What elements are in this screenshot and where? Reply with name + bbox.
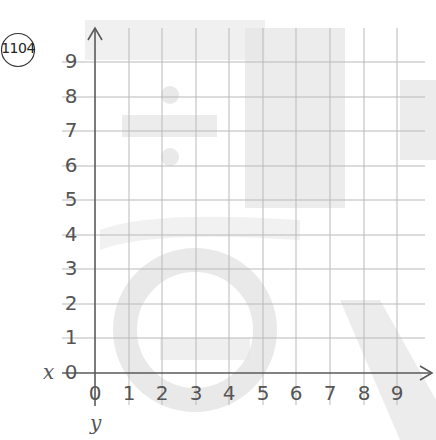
x-tick-5: 5 bbox=[256, 381, 270, 405]
x-tick-8: 8 bbox=[357, 381, 371, 405]
x-tick-2: 2 bbox=[155, 381, 169, 405]
y-tick-8: 8 bbox=[60, 84, 82, 108]
watermark-shapes bbox=[85, 20, 436, 440]
y-axis-letter: y bbox=[90, 411, 101, 435]
y-tick-5: 5 bbox=[60, 187, 82, 211]
y-tick-7: 7 bbox=[60, 118, 82, 142]
x-tick-9: 9 bbox=[390, 381, 404, 405]
x-tick-1: 1 bbox=[122, 381, 136, 405]
x-tick-6: 6 bbox=[289, 381, 303, 405]
y-tick-9: 9 bbox=[60, 49, 82, 73]
y-tick-2: 2 bbox=[60, 291, 82, 315]
x-tick-4: 4 bbox=[222, 381, 236, 405]
badge-label: 1104 bbox=[1, 40, 35, 56]
x-tick-3: 3 bbox=[189, 381, 203, 405]
y-tick-3: 3 bbox=[60, 256, 82, 280]
x-axis-letter: x bbox=[43, 360, 54, 384]
y-tick-0: 0 bbox=[60, 360, 82, 384]
y-tick-1: 1 bbox=[60, 325, 82, 349]
x-tick-7: 7 bbox=[323, 381, 337, 405]
y-tick-4: 4 bbox=[60, 222, 82, 246]
y-tick-6: 6 bbox=[60, 153, 82, 177]
x-tick-0: 0 bbox=[88, 381, 102, 405]
